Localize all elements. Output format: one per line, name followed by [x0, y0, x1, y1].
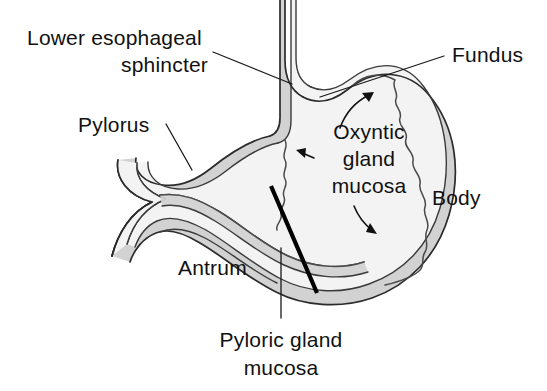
label-antrum: Antrum [178, 256, 247, 279]
label-body: Body [432, 186, 481, 209]
label-lower-esophageal-sphincter-line2: sphincter [121, 53, 208, 76]
label-lower-esophageal-sphincter-line1: Lower esophageal [27, 26, 202, 49]
label-pylorus: Pylorus [78, 113, 149, 136]
label-oxyntic-gland-mucosa-line1: Oxyntic [333, 120, 404, 143]
label-oxyntic-gland-mucosa-line2: gland [343, 147, 395, 170]
label-pyloric-gland-mucosa-line1: Pyloric gland [220, 328, 343, 351]
label-oxyntic-gland-mucosa-line3: mucosa [332, 174, 407, 197]
label-fundus: Fundus [452, 43, 523, 66]
stomach-anatomy-diagram: Lower esophageal sphincter Pylorus Fundu… [0, 0, 547, 391]
label-pyloric-gland-mucosa-line2: mucosa [244, 356, 319, 379]
